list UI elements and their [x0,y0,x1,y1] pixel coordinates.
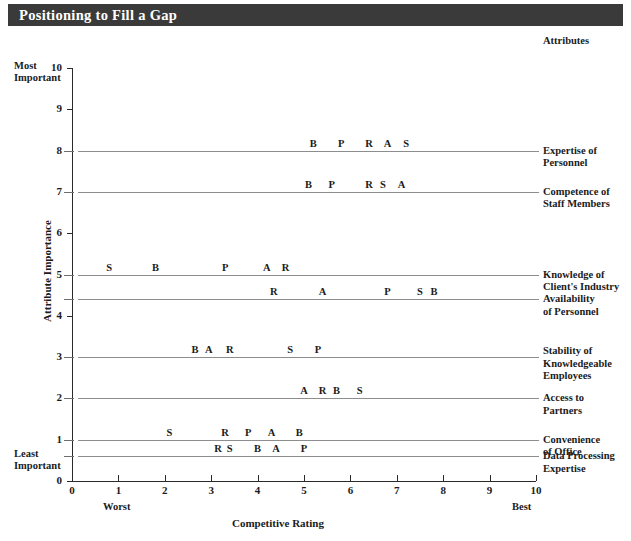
y-tick-label: 8 [40,144,62,156]
best-label: Best [512,501,531,513]
x-tick-mark [118,475,119,481]
row-axis-stub [64,275,74,276]
attribute-label-line: Staff Members [543,198,631,211]
attribute-label: Data ProcessingExpertise [543,450,631,475]
row-axis-stub [64,299,74,300]
data-point-marker: B [251,443,265,454]
data-point-marker: S [162,427,176,438]
data-point-marker: S [223,443,237,454]
y-tick-mark [67,233,73,234]
attribute-row-line [78,192,539,193]
x-tick-mark [304,475,305,481]
data-point-marker: A [316,286,330,297]
attribute-label-line: Client's Industry [543,281,631,294]
attribute-label-line: Partners [543,405,631,418]
x-tick-label: 10 [524,484,548,496]
x-tick-label: 5 [292,484,316,496]
data-point-marker: P [241,427,255,438]
x-tick-mark [165,475,166,481]
worst-label: Worst [103,501,130,513]
data-point-marker: A [381,138,395,149]
data-point-marker: P [218,262,232,273]
attribute-label-line: Data Processing [543,450,631,463]
data-point-marker: B [427,286,441,297]
attribute-label-line: Competence of [543,186,631,199]
attribute-label-line: of Personnel [543,306,631,319]
attribute-label-line: Stability of [543,345,631,358]
y-tick-mark [67,316,73,317]
data-point-marker: R [362,138,376,149]
attribute-row-line [78,299,539,300]
x-axis-line [72,481,536,482]
attribute-label-line: Expertise [543,463,631,476]
data-point-marker: P [381,286,395,297]
x-tick-mark [350,475,351,481]
y-tick-label: 7 [40,185,62,197]
attribute-label-line: Knowledgeable [543,358,631,371]
data-point-marker: S [399,138,413,149]
least-important-line1: Least [14,448,61,460]
y-tick-label: 10 [40,61,62,73]
attribute-row-line [78,456,539,457]
attribute-row-line [78,398,539,399]
y-tick-label: 6 [40,226,62,238]
data-point-marker: R [316,385,330,396]
x-tick-mark [258,475,259,481]
data-point-marker: P [297,443,311,454]
attribute-label-line: Availability [543,293,631,306]
y-tick-label: 2 [40,391,62,403]
x-tick-mark [490,475,491,481]
attribute-label-line: Employees [543,370,631,383]
data-point-marker: B [188,344,202,355]
data-point-marker: R [218,427,232,438]
attribute-label: Availabilityof Personnel [543,293,631,318]
attribute-label-line: Knowledge of [543,269,631,282]
row-axis-stub [64,192,74,193]
attribute-label: Competence ofStaff Members [543,186,631,211]
data-point-marker: S [376,179,390,190]
attribute-label: Expertise ofPersonnel [543,145,631,170]
data-point-marker: R [362,179,376,190]
attribute-label: Stability ofKnowledgeableEmployees [543,345,631,383]
y-tick-label: 1 [40,433,62,445]
data-point-marker: B [149,262,163,273]
x-tick-label: 6 [338,484,362,496]
x-tick-label: 4 [246,484,270,496]
attribute-label-line: Personnel [543,157,631,170]
data-point-marker: P [311,344,325,355]
x-tick-label: 3 [199,484,223,496]
data-point-marker: A [260,262,274,273]
x-tick-mark [397,475,398,481]
x-axis-title: Competitive Rating [232,517,324,529]
x-tick-label: 9 [478,484,502,496]
x-tick-mark [443,475,444,481]
y-tick-mark [67,481,73,482]
x-tick-label: 7 [385,484,409,496]
y-tick-label: 9 [40,102,62,114]
data-point-marker: P [325,179,339,190]
data-point-marker: R [278,262,292,273]
x-tick-mark [211,475,212,481]
attribute-row-line [78,440,539,441]
attribute-label: Access toPartners [543,392,631,417]
data-point-marker: B [306,138,320,149]
row-axis-stub [64,456,74,457]
attributes-heading: Attributes [543,35,589,46]
y-tick-mark [67,109,73,110]
data-point-marker: S [102,262,116,273]
data-point-marker: S [353,385,367,396]
y-tick-label: 5 [40,268,62,280]
data-point-marker: R [267,286,281,297]
attribute-label: Knowledge ofClient's Industry [543,269,631,294]
data-point-marker: A [394,179,408,190]
attribute-label-line: Access to [543,392,631,405]
data-point-marker: R [223,344,237,355]
data-point-marker: A [297,385,311,396]
chart-plot-area: Attribute Importance Competitive Rating … [0,0,631,541]
attribute-row-line [78,275,539,276]
row-axis-stub [64,398,74,399]
least-important-line2: Important [14,460,61,472]
data-point-marker: A [265,427,279,438]
y-tick-label: 4 [40,309,62,321]
y-tick-label: 0 [40,474,62,486]
